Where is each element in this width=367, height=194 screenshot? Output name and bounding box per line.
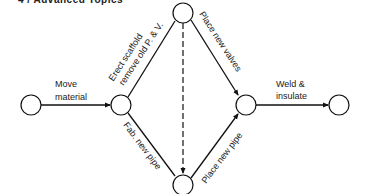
label-weld: Weld & xyxy=(276,79,305,89)
label-material: material xyxy=(55,92,87,102)
label-insulate: insulate xyxy=(276,91,307,101)
label-fab-new-pipe: Fab. new pipe xyxy=(121,120,163,171)
node-1 xyxy=(21,95,41,115)
node-2 xyxy=(111,95,131,115)
network-diagram: Move material Erect scaffold remove old … xyxy=(0,0,367,194)
node-3 xyxy=(173,3,193,23)
label-move: Move xyxy=(55,79,77,89)
node-6 xyxy=(329,95,349,115)
arrow-fab-new-pipe xyxy=(128,113,175,176)
node-5 xyxy=(236,95,256,115)
node-4 xyxy=(173,175,193,194)
